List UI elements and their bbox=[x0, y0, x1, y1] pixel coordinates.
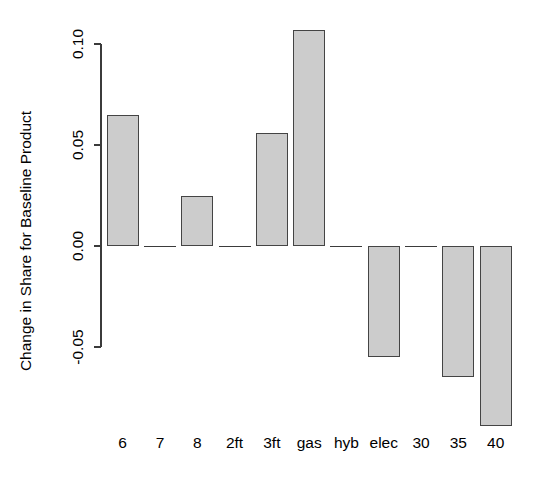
bar-40 bbox=[480, 246, 512, 426]
y-axis-tick-3 bbox=[94, 43, 101, 45]
y-axis-tick-1 bbox=[94, 245, 101, 247]
bar-chart: Change in Share for Baseline Product -0.… bbox=[0, 0, 542, 482]
y-tick-label-0: -0.05 bbox=[68, 317, 88, 377]
bar-8 bbox=[181, 196, 213, 247]
bar-hyb bbox=[330, 246, 362, 247]
bar-7 bbox=[144, 246, 176, 247]
bar-2ft bbox=[219, 246, 251, 247]
plot-area bbox=[101, 20, 531, 435]
y-tick-label-3: 0.10 bbox=[68, 14, 88, 74]
bar-6 bbox=[107, 115, 139, 246]
bar-35 bbox=[442, 246, 474, 377]
y-tick-label-1: 0.00 bbox=[68, 216, 88, 276]
bar-30 bbox=[405, 246, 437, 247]
x-tick-label-40: 40 bbox=[456, 434, 536, 452]
bar-elec bbox=[368, 246, 400, 357]
y-axis-title: Change in Share for Baseline Product bbox=[22, 0, 52, 482]
y-tick-label-2: 0.05 bbox=[68, 115, 88, 175]
bar-3ft bbox=[256, 133, 288, 246]
y-axis-tick-2 bbox=[94, 144, 101, 146]
bar-gas bbox=[293, 30, 325, 246]
y-axis-tick-0 bbox=[94, 346, 101, 348]
